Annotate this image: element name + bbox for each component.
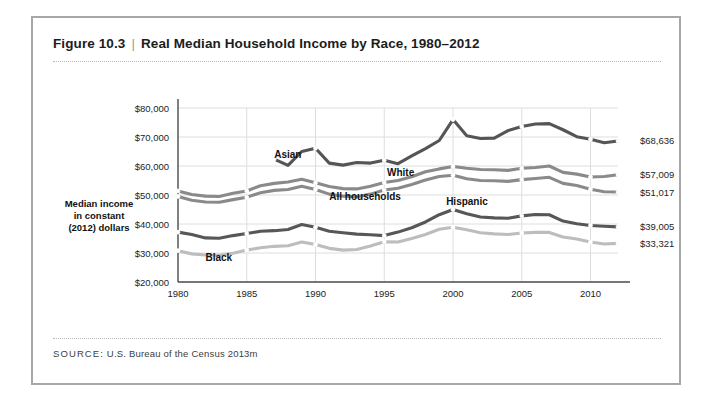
data-point-marker — [451, 173, 455, 177]
series-label-black: Black — [206, 252, 233, 263]
data-point-marker — [245, 195, 249, 199]
source-text: U.S. Bureau of the Census 2013m — [104, 348, 258, 359]
end-value-label-asian: $68,636 — [640, 135, 674, 146]
divider-bottom — [53, 338, 661, 339]
end-value-label-hispanic: $39,005 — [640, 221, 674, 232]
figure-title-text: Real Median Household Income by Race, 19… — [141, 36, 480, 51]
end-value-label-black: $33,321 — [640, 238, 674, 249]
data-point-marker — [520, 214, 524, 218]
divider-top — [53, 61, 661, 62]
data-point-marker — [314, 243, 318, 247]
data-point-marker — [520, 178, 524, 182]
data-point-marker — [616, 139, 620, 143]
data-point-marker — [382, 158, 386, 162]
x-axis-tick-label: 1995 — [374, 288, 395, 299]
data-point-marker — [451, 165, 455, 169]
data-point-marker — [245, 232, 249, 236]
data-point-marker — [616, 241, 620, 245]
end-value-label-all-households: $51,017 — [640, 187, 674, 198]
data-point-marker — [245, 189, 249, 193]
x-axis-tick-label: 1980 — [167, 288, 188, 299]
data-point-marker — [314, 225, 318, 229]
chart-plot-area: Median income in constant (2012) dollars… — [33, 70, 683, 335]
data-point-marker — [589, 224, 593, 228]
data-point-marker — [589, 240, 593, 244]
x-axis-tick-label: 1990 — [305, 288, 326, 299]
y-axis-tick-label: $80,000 — [135, 103, 169, 114]
data-point-marker — [382, 234, 386, 238]
data-point-marker — [616, 173, 620, 177]
data-point-marker — [451, 118, 455, 122]
end-value-label-white: $57,009 — [640, 169, 674, 180]
data-point-marker — [176, 195, 180, 199]
data-point-marker — [520, 231, 524, 235]
data-point-marker — [589, 137, 593, 141]
page-title: Figure 10.3|Real Median Household Income… — [53, 36, 480, 51]
series-label-asian: Asian — [274, 149, 301, 160]
series-label-white: White — [387, 167, 415, 178]
line-chart: $20,000$30,000$40,000$50,000$60,000$70,0… — [33, 70, 683, 335]
figure-number: Figure 10.3 — [53, 36, 125, 51]
data-point-marker — [520, 166, 524, 170]
source-label: SOURCE: — [53, 348, 104, 359]
figure-frame: Figure 10.3|Real Median Household Income… — [31, 16, 681, 385]
x-axis-tick-label: 2005 — [511, 288, 532, 299]
data-point-marker — [314, 181, 318, 185]
source-note: SOURCE: U.S. Bureau of the Census 2013m — [53, 348, 258, 359]
y-axis-tick-label: $50,000 — [135, 190, 169, 201]
data-point-marker — [245, 248, 249, 252]
y-axis-tick-label: $70,000 — [135, 132, 169, 143]
data-point-marker — [176, 249, 180, 253]
data-point-marker — [589, 175, 593, 179]
data-point-marker — [616, 225, 620, 229]
x-axis-tick-label: 2000 — [442, 288, 463, 299]
title-divider: | — [125, 36, 141, 51]
y-axis-tick-label: $40,000 — [135, 219, 169, 230]
data-point-marker — [589, 187, 593, 191]
y-axis-tick-label: $20,000 — [135, 277, 169, 288]
data-point-marker — [520, 125, 524, 129]
y-axis-tick-label: $60,000 — [135, 161, 169, 172]
data-point-marker — [616, 190, 620, 194]
y-axis-tick-label: $30,000 — [135, 248, 169, 259]
data-point-marker — [451, 225, 455, 229]
x-axis-tick-label: 1985 — [236, 288, 257, 299]
series-label-hispanic: Hispanic — [446, 196, 488, 207]
data-point-marker — [176, 189, 180, 193]
data-point-marker — [451, 208, 455, 212]
data-line-asian — [274, 120, 618, 166]
data-point-marker — [314, 146, 318, 150]
data-point-marker — [382, 181, 386, 185]
data-point-marker — [176, 230, 180, 234]
x-axis-tick-label: 2010 — [580, 288, 601, 299]
data-point-marker — [314, 188, 318, 192]
series-label-all-households: All households — [329, 191, 401, 202]
data-point-marker — [382, 240, 386, 244]
